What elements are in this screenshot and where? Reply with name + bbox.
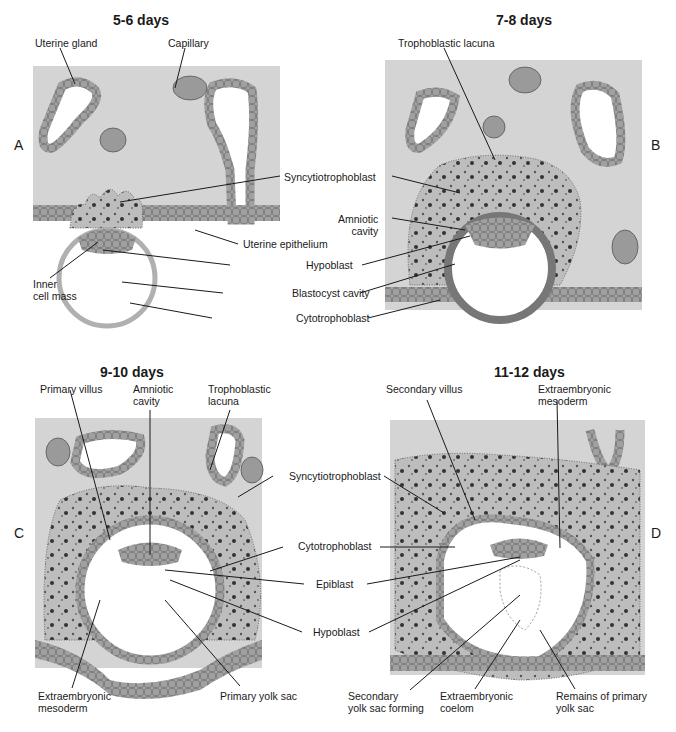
label-primary-yolk-sac: Primary yolk sac [220,690,297,702]
label-hypoblast-ab: Hypoblast [306,259,353,271]
label-cytotrophoblast-ab: Cytotrophoblast [296,312,370,324]
panel-c-art [35,418,263,699]
panel-b-title: 7-8 days [496,12,552,28]
label-uterine-epithelium: Uterine epithelium [243,238,328,250]
panel-c-title: 9-10 days [100,364,164,380]
label-blastocyst-cavity: Blastocyst cavity [292,287,370,299]
label-capillary: Capillary [168,37,209,49]
label-syncytiotrophoblast-cd: Syncytiotrophoblast [289,470,381,482]
label-hypoblast-cd: Hypoblast [313,626,360,638]
panel-a-letter: A [14,137,23,153]
label-cytotrophoblast-cd: Cytotrophoblast [298,540,372,552]
implantation-figure: 5-6 days 7-8 days 9-10 days 11-12 days A… [0,0,676,732]
panel-b-letter: B [651,137,660,153]
label-trophoblastic-lacuna-b: Trophoblastic lacuna [398,37,495,49]
label-syncytiotrophoblast-ab: Syncytiotrophoblast [284,171,376,183]
label-uterine-gland: Uterine gland [35,37,97,49]
label-extraembryonic-coelom: Extraembryonic coelom [440,690,513,714]
panel-d-art [390,420,645,680]
panel-b-art [385,60,642,320]
label-secondary-villus: Secondary villus [386,383,462,395]
label-epiblast: Epiblast [316,578,353,590]
label-secondary-yolk-sac-forming: Secondary yolk sac forming [348,690,424,714]
label-amniotic-cavity-b: Amniotic cavity [338,213,378,237]
panel-c-letter: C [14,525,24,541]
panel-d-letter: D [651,525,661,541]
label-remains-primary-yolk-sac: Remains of primary yolk sac [556,690,647,714]
label-extraembryonic-mesoderm-c: Extraembryonic mesoderm [38,690,111,714]
panel-d-title: 11-12 days [494,364,565,380]
label-amniotic-cavity-c: Amniotic cavity [133,383,173,407]
label-inner-cell-mass: Inner cell mass [33,278,77,302]
label-extraembryonic-mesoderm-d: Extraembryonic mesoderm [538,383,611,407]
label-trophoblastic-lacuna-c: Trophoblastic lacuna [208,383,271,407]
label-primary-villus: Primary villus [40,383,102,395]
panel-a-title: 5-6 days [113,12,169,28]
